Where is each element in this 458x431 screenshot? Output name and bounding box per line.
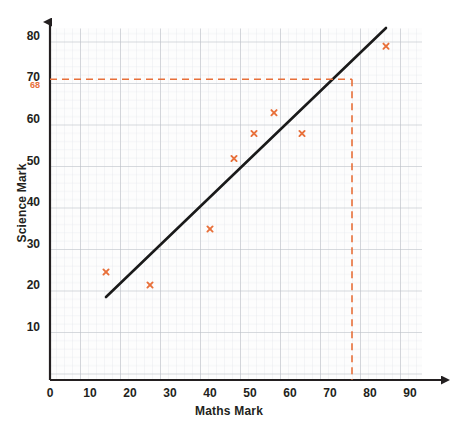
x-tick-label-80: 80 bbox=[355, 386, 385, 400]
annotation-label-68: 68 bbox=[18, 80, 40, 90]
x-tick-label-30: 30 bbox=[155, 386, 185, 400]
y-tick-label-20: 20 bbox=[14, 278, 40, 292]
x-tick-label-10: 10 bbox=[75, 386, 105, 400]
grid-background bbox=[50, 28, 422, 381]
y-tick-label-10: 10 bbox=[14, 320, 40, 334]
x-tick-label-50: 50 bbox=[235, 386, 265, 400]
y-tick-label-60: 60 bbox=[14, 112, 40, 126]
x-tick-label-20: 20 bbox=[115, 386, 145, 400]
scatter-chart: 80 70 60 50 40 30 20 10 68 0 10 20 30 40… bbox=[0, 0, 458, 431]
x-tick-label-40: 40 bbox=[195, 386, 225, 400]
x-tick-label-70: 70 bbox=[315, 386, 345, 400]
y-tick-label-80: 80 bbox=[14, 29, 40, 43]
plot-area bbox=[0, 0, 458, 431]
x-tick-label-90: 90 bbox=[395, 386, 425, 400]
x-axis-title: Maths Mark bbox=[0, 404, 458, 418]
x-tick-label-60: 60 bbox=[275, 386, 305, 400]
x-tick-label-0: 0 bbox=[35, 386, 65, 400]
y-axis-title: Science Mark bbox=[15, 133, 29, 273]
